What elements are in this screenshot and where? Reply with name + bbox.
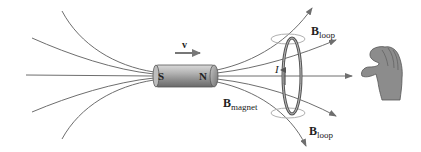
magnet-loop-induction-diagram: S N v I Bmagnet Bloop Bloop (0, 0, 421, 152)
b-loop-bottom-label: Bloop (309, 122, 333, 138)
b-loop-top-label: Bloop (311, 22, 335, 38)
b-loop-top-subscript: loop (319, 30, 335, 40)
south-pole-label: S (158, 71, 164, 82)
b-loop-bottom-subscript: loop (317, 130, 333, 140)
north-pole-label: N (199, 71, 207, 82)
b-loop-top-symbol: B (311, 24, 319, 38)
b-loop-bottom-symbol: B (309, 124, 317, 138)
velocity-label: v (182, 40, 187, 50)
diagram-canvas (0, 0, 421, 152)
hand-icon (361, 47, 402, 100)
b-magnet-subscript: magnet (231, 102, 258, 112)
b-magnet-symbol: B (223, 96, 231, 110)
field-lines-left (26, 11, 154, 139)
current-label: I (275, 64, 279, 75)
b-magnet-label: Bmagnet (223, 94, 258, 110)
